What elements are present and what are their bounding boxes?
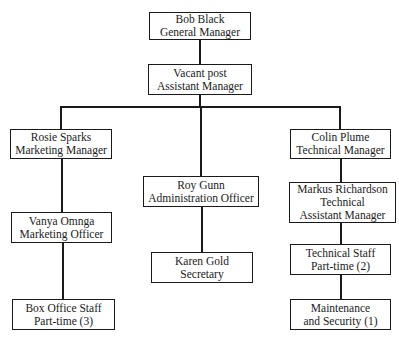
connector-mo-bo	[62, 242, 64, 299]
node-secretary: Karen Gold Secretary	[151, 252, 253, 283]
node-role: and Security (1)	[303, 315, 377, 328]
node-name: Technical Staff	[306, 247, 376, 260]
node-general-manager: Bob Black General Manager	[149, 12, 251, 40]
node-technical-staff: Technical Staff Part-time (2)	[290, 244, 391, 275]
node-role: Technical Manager	[296, 144, 384, 157]
node-role-line2: Assistant Manager	[300, 209, 386, 222]
node-maintenance-security: Maintenance and Security (1)	[290, 299, 391, 330]
node-name: Box Office Staff	[25, 302, 101, 315]
node-name: Vacant post	[173, 67, 226, 80]
node-marketing-officer: Vanya Omnga Marketing Officer	[11, 212, 112, 243]
connector-ao-sec	[201, 206, 203, 252]
node-name: Rosie Sparks	[31, 131, 91, 144]
connector-bus-tm	[339, 106, 341, 129]
node-role: Assistant Manager	[157, 80, 243, 93]
node-marketing-manager: Rosie Sparks Marketing Manager	[10, 129, 112, 159]
connector-tam-ts	[340, 222, 342, 244]
node-technical-assistant-manager: Markus Richardson Technical Assistant Ma…	[289, 182, 396, 223]
node-administration-officer: Roy Gunn Administration Officer	[143, 176, 259, 207]
connector-bus-mm	[60, 106, 62, 129]
node-name: Roy Gunn	[177, 179, 225, 192]
connector-gm-am	[199, 39, 201, 64]
connector-ts-ms	[340, 274, 342, 299]
node-name: Vanya Omnga	[29, 215, 94, 228]
node-name: Bob Black	[176, 13, 225, 26]
node-role: Part-time (2)	[311, 260, 370, 273]
node-role: Part-time (3)	[34, 315, 93, 328]
node-box-office-staff: Box Office Staff Part-time (3)	[12, 299, 115, 330]
node-role: Marketing Officer	[20, 228, 104, 241]
node-name: Karen Gold	[175, 255, 229, 268]
node-role: Administration Officer	[148, 192, 254, 205]
node-name: Markus Richardson	[297, 183, 387, 196]
node-role: General Manager	[160, 26, 240, 39]
node-name: Maintenance	[311, 302, 370, 315]
node-role: Marketing Manager	[15, 144, 107, 157]
node-assistant-manager: Vacant post Assistant Manager	[148, 64, 252, 95]
node-role: Technical	[320, 196, 365, 209]
connector-tm-tam	[340, 158, 342, 182]
node-name: Colin Plume	[312, 131, 370, 144]
node-technical-manager: Colin Plume Technical Manager	[290, 129, 391, 159]
node-role: Secretary	[180, 268, 223, 281]
connector-mm-mo	[61, 158, 63, 212]
connector-bus-ao	[200, 106, 202, 176]
